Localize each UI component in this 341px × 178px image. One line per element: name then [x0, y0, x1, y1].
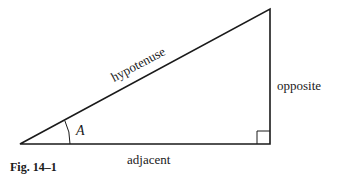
hypotenuse-label: hypotenuse	[108, 43, 168, 84]
adjacent-label: adjacent	[127, 152, 171, 167]
right-angle-marker	[257, 131, 270, 144]
angle-label: A	[75, 123, 85, 138]
right-triangle-diagram: A hypotenuse opposite adjacent Fig. 14–1	[0, 0, 341, 178]
opposite-label: opposite	[277, 78, 321, 93]
angle-arc	[65, 121, 70, 144]
figure-caption: Fig. 14–1	[10, 160, 57, 174]
triangle	[20, 9, 270, 144]
